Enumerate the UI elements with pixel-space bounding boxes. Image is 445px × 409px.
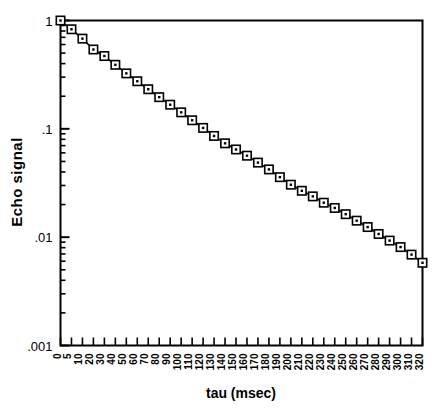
x-axis-tick-label: 280 bbox=[370, 353, 381, 370]
x-axis-tick-label: 40 bbox=[106, 353, 117, 365]
data-point-marker bbox=[210, 132, 218, 140]
x-axis-tick-label: 100 bbox=[172, 353, 183, 370]
data-point-marker bbox=[56, 16, 64, 24]
data-point-marker bbox=[78, 34, 86, 42]
data-point-marker bbox=[67, 25, 75, 33]
chart-background bbox=[0, 0, 445, 409]
data-point-marker bbox=[276, 173, 284, 181]
y-axis-tick-label: 1 bbox=[45, 14, 52, 29]
x-axis-tick-label: 110 bbox=[183, 353, 194, 370]
data-point-marker bbox=[374, 230, 382, 238]
x-axis-tick-label: 260 bbox=[348, 353, 359, 370]
x-axis-tick-label: 310 bbox=[403, 353, 414, 370]
data-point-marker bbox=[396, 243, 404, 251]
data-point-marker bbox=[188, 116, 196, 124]
data-point-marker bbox=[331, 204, 339, 212]
data-point-marker bbox=[100, 52, 108, 60]
x-axis-tick-label: 320 bbox=[414, 353, 425, 370]
data-point-marker bbox=[144, 85, 152, 93]
y-axis-tick-label: .001 bbox=[27, 339, 52, 354]
data-point-marker bbox=[298, 187, 306, 195]
data-point-marker bbox=[89, 45, 97, 53]
data-point-marker bbox=[320, 199, 328, 207]
data-point-marker bbox=[407, 250, 415, 258]
data-point-marker bbox=[309, 192, 317, 200]
data-point-marker bbox=[221, 139, 229, 147]
x-axis-tick-label: 160 bbox=[238, 353, 249, 370]
x-axis-tick-label: 0 bbox=[52, 353, 63, 359]
x-axis-tick-label: 190 bbox=[271, 353, 282, 370]
data-point-marker bbox=[363, 223, 371, 231]
data-point-marker bbox=[243, 151, 251, 159]
data-point-marker bbox=[418, 259, 426, 267]
chart-figure: 1.1.01.001 05102030405060708090100110120… bbox=[0, 0, 445, 409]
data-point-marker bbox=[122, 69, 130, 77]
x-axis-tick-label: 90 bbox=[161, 353, 172, 365]
x-axis-tick-label: 60 bbox=[128, 353, 139, 365]
x-axis-tick-label: 70 bbox=[139, 353, 150, 365]
x-axis-tick-label: 250 bbox=[337, 353, 348, 370]
x-axis-tick-label: 150 bbox=[227, 353, 238, 370]
x-axis-tick-label: 20 bbox=[84, 353, 95, 365]
data-point-marker bbox=[232, 145, 240, 153]
data-point-marker bbox=[111, 61, 119, 69]
data-point-marker bbox=[342, 210, 350, 218]
x-axis-tick-label: 5 bbox=[62, 353, 73, 359]
x-axis-tick-label: 300 bbox=[392, 353, 403, 370]
x-axis-title: tau (msec) bbox=[206, 385, 276, 401]
x-axis-tick-label: 80 bbox=[150, 353, 161, 365]
x-axis-tick-label: 290 bbox=[381, 353, 392, 370]
x-axis-tick-label: 220 bbox=[304, 353, 315, 370]
data-point-marker bbox=[385, 236, 393, 244]
x-axis-tick-label: 30 bbox=[95, 353, 106, 365]
data-point-marker bbox=[287, 181, 295, 189]
data-point-marker bbox=[155, 93, 163, 101]
y-axis-tick-label: .1 bbox=[42, 122, 53, 137]
x-axis-tick-label: 270 bbox=[359, 353, 370, 370]
x-axis-tick-label: 120 bbox=[194, 353, 205, 370]
y-axis-tick-label: .01 bbox=[34, 230, 52, 245]
x-axis-tick-label: 10 bbox=[73, 353, 84, 365]
data-point-marker bbox=[199, 124, 207, 132]
x-axis-tick-label: 180 bbox=[260, 353, 271, 370]
data-point-marker bbox=[166, 101, 174, 109]
x-axis-tick-label: 210 bbox=[293, 353, 304, 370]
data-point-marker bbox=[265, 165, 273, 173]
x-axis-tick-label: 240 bbox=[326, 353, 337, 370]
x-axis-tick-label: 50 bbox=[117, 353, 128, 365]
data-point-marker bbox=[352, 216, 360, 224]
data-point-marker bbox=[133, 77, 141, 85]
x-axis-tick-label: 130 bbox=[205, 353, 216, 370]
x-axis-tick-label: 170 bbox=[249, 353, 260, 370]
x-axis-tick-label: 140 bbox=[216, 353, 227, 370]
x-axis-tick-label: 200 bbox=[282, 353, 293, 370]
data-point-marker bbox=[177, 108, 185, 116]
data-point-marker bbox=[254, 158, 262, 166]
y-axis-title: Echo signal bbox=[8, 137, 25, 227]
echo-signal-decay-chart: 1.1.01.001 05102030405060708090100110120… bbox=[0, 0, 445, 409]
x-axis-tick-label: 230 bbox=[315, 353, 326, 370]
